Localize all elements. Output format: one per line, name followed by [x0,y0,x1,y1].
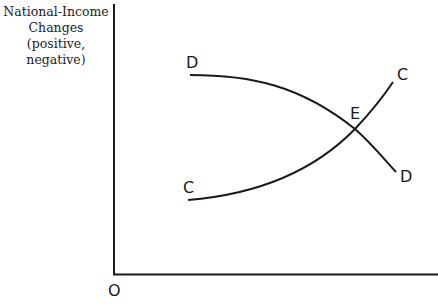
diagram-canvas: D D C C E O [0,0,438,304]
cc-end-label: C [397,65,408,84]
dd-start-label: D [186,53,198,72]
cc-curve [188,82,393,200]
equilibrium-label: E [350,104,360,123]
origin-label: O [108,281,121,300]
dd-end-label: D [400,167,412,186]
cc-start-label: C [183,178,194,197]
dd-curve [190,75,396,172]
